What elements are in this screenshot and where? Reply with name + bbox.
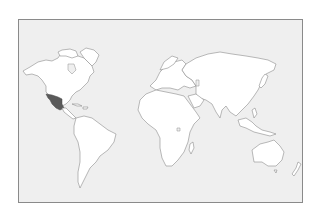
region-caribbean[interactable] [72, 104, 82, 106]
region-philippines [252, 108, 257, 118]
region-madagascar[interactable] [189, 142, 194, 154]
lake-victoria [177, 128, 180, 131]
caspian-sea [196, 80, 199, 86]
region-caribbean-2 [83, 107, 88, 109]
region-australia[interactable] [252, 140, 284, 166]
region-tasmania [274, 170, 277, 173]
region-new-zealand[interactable] [292, 162, 301, 176]
region-south-america[interactable] [74, 116, 116, 188]
world-map [0, 0, 318, 217]
region-southeast-asia[interactable] [238, 118, 276, 136]
region-central-america[interactable] [62, 108, 76, 119]
